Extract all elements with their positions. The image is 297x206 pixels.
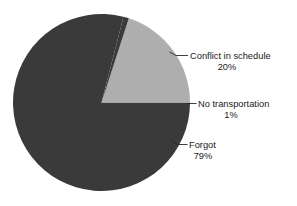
slice-label-no-transportation: No transportation [198, 99, 269, 109]
slice-percent-conflict-in-schedule: 20% [218, 62, 237, 72]
slice-percent-no-transportation: 1% [224, 110, 237, 120]
figure-footnote [0, 199, 297, 206]
pie-chart-figure: Conflict in schedule 20% No transportati… [0, 0, 297, 206]
pie-chart-svg: Conflict in schedule 20% No transportati… [0, 0, 297, 206]
slice-label-conflict-in-schedule: Conflict in schedule [190, 51, 271, 61]
slice-label-forgot: Forgot [189, 140, 216, 150]
slice-percent-forgot: 79% [194, 151, 213, 161]
